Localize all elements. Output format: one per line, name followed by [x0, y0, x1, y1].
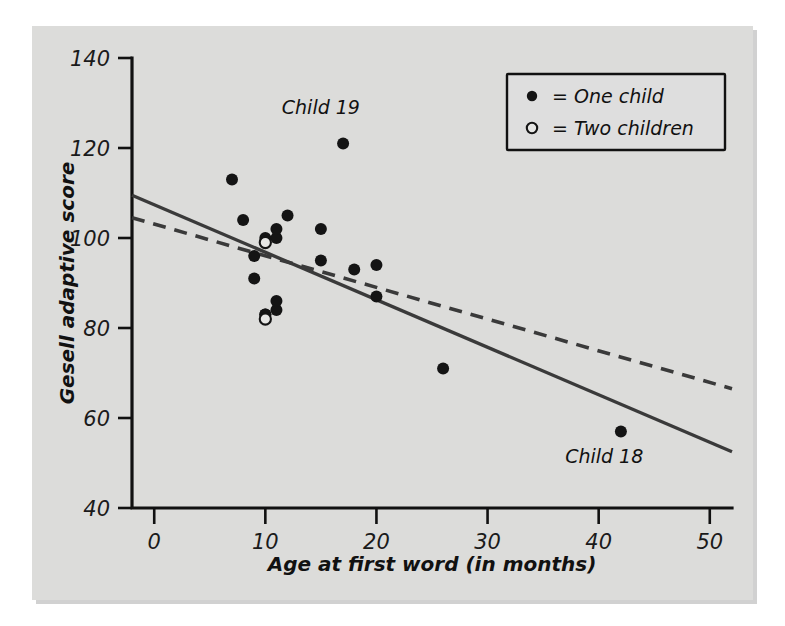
x-tick-label: 20	[363, 530, 390, 554]
legend-label-one-child: = One child	[552, 85, 665, 107]
data-point-one-child	[370, 259, 382, 271]
figure-panel: 406080100120140 01020304050 Child 19Chil…	[32, 26, 753, 600]
annotation-label: Child 18	[565, 445, 643, 467]
data-point-one-child	[237, 214, 249, 226]
data-point-one-child	[348, 264, 360, 276]
data-point-one-child	[270, 223, 282, 235]
x-tick-label: 10	[252, 530, 279, 554]
data-point-one-child	[615, 426, 627, 438]
x-axis-title: Age at first word (in months)	[266, 552, 597, 576]
data-point-one-child	[315, 255, 327, 267]
data-point-one-child	[437, 363, 449, 375]
data-point-one-child	[282, 210, 294, 222]
legend-label-two-children: = Two children	[552, 117, 694, 139]
data-point-two-children	[260, 237, 271, 248]
data-point-one-child	[226, 174, 238, 186]
y-tick-label: 140	[70, 47, 110, 71]
data-point-one-child	[270, 295, 282, 307]
data-point-one-child	[248, 250, 260, 262]
x-tick-label: 0	[148, 530, 161, 554]
data-point-one-child	[370, 291, 382, 303]
y-tick-label: 40	[83, 497, 110, 521]
data-point-one-child	[337, 138, 349, 150]
y-tick-label: 80	[83, 317, 110, 341]
legend-marker-two-children	[527, 123, 537, 133]
legend: = One child = Two children	[507, 74, 725, 150]
data-point-one-child	[248, 273, 260, 285]
x-tick-label: 40	[585, 530, 612, 554]
data-point-one-child	[315, 223, 327, 235]
data-point-two-children	[260, 313, 271, 324]
y-tick-label: 120	[70, 137, 110, 161]
x-tick-label: 30	[474, 530, 501, 554]
legend-marker-one-child	[527, 91, 537, 101]
x-tick-label: 50	[696, 530, 723, 554]
scatter-plot: 406080100120140 01020304050 Child 19Chil…	[32, 26, 753, 600]
y-tick-label: 60	[83, 407, 110, 431]
annotation-label: Child 19	[282, 96, 360, 118]
y-axis-title: Gesell adaptive score	[55, 162, 79, 405]
